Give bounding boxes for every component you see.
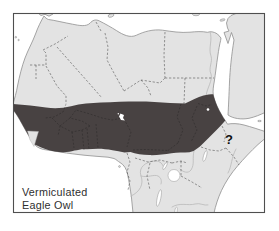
island-bioko (119, 166, 121, 168)
species-label-line1: Vermiculated (22, 186, 87, 199)
island-socotra (258, 120, 262, 121)
island-canary-1 (15, 36, 17, 38)
island-canary-2 (18, 39, 19, 40)
lake-victoria (168, 170, 180, 182)
uncertain-range-marker: ? (221, 133, 237, 147)
species-label-line2: Eagle Owl (22, 199, 87, 212)
lake-chad-pool (118, 113, 119, 114)
species-label: Vermiculated Eagle Owl (22, 186, 87, 211)
lake-tana (207, 108, 210, 111)
range-map-figure: ? Vermiculated Eagle Owl (0, 0, 279, 231)
